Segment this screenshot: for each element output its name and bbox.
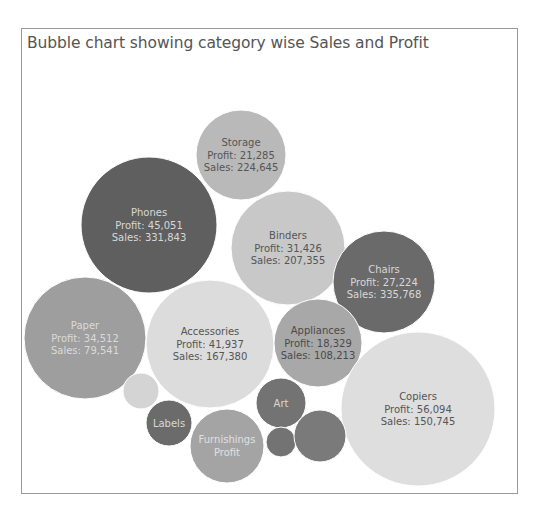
- bubble-art[interactable]: Art: [256, 378, 306, 428]
- bubble-label-sales: Sales: 108,213: [281, 350, 356, 361]
- bubble-circle[interactable]: [294, 410, 346, 462]
- bubble-label-category: Art: [274, 398, 289, 409]
- bubble-chart: StorageProfit: 21,285Sales: 224,645Phone…: [0, 0, 537, 522]
- bubble-label-category: Appliances: [291, 325, 345, 336]
- bubble-label-sales: Sales: 150,745: [381, 416, 456, 427]
- bubble-label-sales: Sales: 224,645: [204, 162, 279, 173]
- bubble-label-category: Labels: [153, 418, 185, 429]
- bubble-unlabeled-13[interactable]: [294, 410, 346, 462]
- bubble-label-profit: Profit: 31,426: [254, 243, 322, 254]
- bubble-label-profit: Profit: 41,937: [176, 339, 244, 350]
- bubble-appliances[interactable]: AppliancesProfit: 18,329Sales: 108,213: [274, 299, 362, 387]
- bubble-label-category: Storage: [221, 137, 260, 148]
- bubble-label-sales: Sales: 79,541: [51, 345, 119, 356]
- bubble-label-profit: Profit: 18,329: [284, 338, 352, 349]
- bubble-label-profit: Profit: 34,512: [51, 333, 119, 344]
- bubble-label-profit: Profit: 27,224: [350, 277, 418, 288]
- bubble-label-profit: Profit: 56,094: [384, 404, 452, 415]
- bubble-circle[interactable]: [123, 373, 159, 409]
- bubble-label-category: Furnishings: [199, 434, 256, 445]
- bubble-label-sales: Sales: 207,355: [251, 255, 326, 266]
- bubble-label-profit: Profit: 45,051: [115, 220, 183, 231]
- bubble-label-sales: Sales: 167,380: [173, 351, 248, 362]
- bubble-label-sales: Sales: 331,843: [112, 232, 187, 243]
- bubble-label-profit: Profit: 21,285: [207, 150, 275, 161]
- bubble-unlabeled-8[interactable]: [123, 373, 159, 409]
- bubble-label-category: Copiers: [399, 391, 437, 402]
- bubble-furnishings[interactable]: FurnishingsProfit: [190, 409, 264, 483]
- bubble-labels[interactable]: Labels: [146, 400, 192, 446]
- bubble-unlabeled-12[interactable]: [266, 427, 296, 457]
- bubble-circle[interactable]: [266, 427, 296, 457]
- bubble-accessories[interactable]: AccessoriesProfit: 41,937Sales: 167,380: [146, 280, 274, 408]
- bubble-storage[interactable]: StorageProfit: 21,285Sales: 224,645: [196, 110, 286, 200]
- bubble-label-category: Accessories: [181, 326, 240, 337]
- bubble-phones[interactable]: PhonesProfit: 45,051Sales: 331,843: [81, 157, 217, 293]
- bubble-label-sales: Sales: 335,768: [347, 289, 422, 300]
- bubble-label-category: Chairs: [368, 264, 400, 275]
- bubble-label-category: Paper: [71, 320, 100, 331]
- bubble-label-category: Phones: [131, 207, 167, 218]
- bubble-label-category: Binders: [269, 230, 307, 241]
- bubble-label-profit: Profit: [214, 447, 240, 458]
- bubble-copiers[interactable]: CopiersProfit: 56,094Sales: 150,745: [341, 332, 495, 486]
- bubble-binders[interactable]: BindersProfit: 31,426Sales: 207,355: [231, 191, 345, 305]
